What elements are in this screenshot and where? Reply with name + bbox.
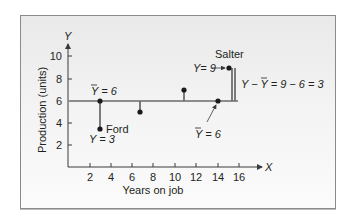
data-points: [97, 65, 231, 131]
y3-label: Y = 3: [89, 133, 116, 145]
svg-text:8: 8: [150, 171, 156, 183]
x-ticks: [90, 163, 239, 167]
svg-text:14: 14: [212, 171, 224, 183]
x-tick-labels: 2 4 6 8 10 12 14 16: [87, 171, 245, 183]
point-4: [181, 87, 186, 92]
y-axis-label: Production (units): [36, 67, 48, 153]
point-mean-ford: [97, 98, 102, 103]
ybar6-right-label: Y = 6: [195, 128, 222, 140]
point-ford: [97, 126, 102, 131]
y-tick-labels: 10 8 6 4 2: [50, 50, 62, 151]
svg-text:6: 6: [56, 95, 62, 107]
svg-text:2: 2: [87, 171, 93, 183]
svg-text:2: 2: [56, 139, 62, 151]
y-axis-letter: Y: [64, 30, 72, 42]
deviation-stems: [100, 68, 235, 129]
deviation-label: Y − Y = 9 − 6 = 3: [241, 78, 324, 90]
svg-text:16: 16: [233, 171, 245, 183]
svg-text:8: 8: [56, 73, 62, 85]
svg-text:4: 4: [56, 117, 62, 129]
annotations: Y = 6 Ford Y = 3 Salter Y= 9 Y − Y = 9 −…: [89, 48, 324, 145]
point-salter: [226, 65, 231, 70]
point-mean-right: [215, 98, 220, 103]
regression-deviation-diagram: Y X 10 8 6 4 2 Production (units) 2 4 6 …: [0, 0, 353, 218]
salter-label: Salter: [215, 48, 244, 60]
svg-text:6: 6: [129, 171, 135, 183]
point-3: [137, 109, 142, 114]
x-axis-letter: X: [264, 161, 273, 173]
ybar6-left-label: Y = 6: [91, 85, 118, 97]
svg-text:10: 10: [50, 50, 62, 62]
x-axis-label: Years on job: [123, 184, 184, 196]
svg-text:10: 10: [169, 171, 181, 183]
ybar6-right-pointer: [207, 105, 216, 122]
svg-text:4: 4: [108, 171, 114, 183]
svg-text:12: 12: [190, 171, 202, 183]
